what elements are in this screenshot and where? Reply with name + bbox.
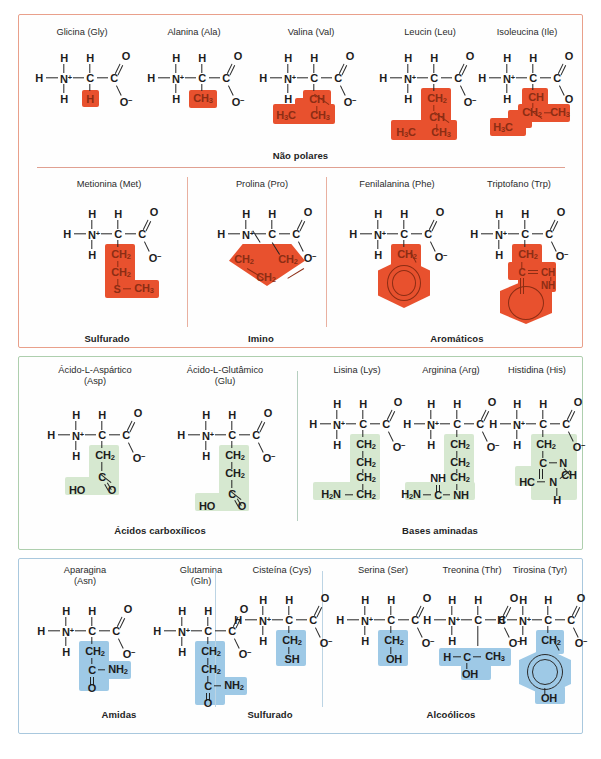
molecule-name: Aparagina (Asn) (27, 565, 143, 587)
molecule-triptofano: Triptofano (Trp) H N+ H H C H CH2 (456, 179, 582, 324)
row-divider (37, 167, 565, 168)
group-label-nao-polares: Não polares (19, 150, 582, 161)
group-label-acidos-carboxilicos: Ácidos carboxílicos (29, 525, 291, 536)
molecule-name: Lisina (Lys) (307, 365, 407, 376)
molecule-histidina: Histidina (His) H N+ H H C H CH2 C (487, 365, 587, 508)
group-divider (297, 371, 298, 521)
molecule-name: Fenilalanina (Phe) (333, 179, 461, 190)
molecule-name: Prolina (Pro) (197, 179, 327, 190)
molecule-name: Alanina (Ala) (139, 27, 249, 38)
molecule-acido-aspartico: Ácido-L-Aspártico (Asp) H N+ H H C H CH2… (29, 365, 161, 509)
molecule-name: Triptofano (Trp) (456, 179, 582, 190)
group-label-imino: Imino (197, 333, 325, 344)
molecule-aparagina: Aparagina (Asn) H N+ H H C H CH2 C (27, 565, 143, 697)
molecule-valina: Valina (Val) H N+ H H C H CH (251, 27, 371, 132)
group-label-bases-aminadas: Bases aminadas (305, 525, 575, 536)
amide-panel: Aparagina (Asn) H N+ H H C H CH2 C (18, 558, 583, 734)
group-label-aromaticos: Aromáticos (335, 333, 579, 344)
molecule-name: Glicina (Gly) (27, 27, 137, 38)
molecule-name: Ácido-L-Glutâmico (Glu) (159, 365, 291, 387)
group-label-sulfurado-1: Sulfurado (37, 333, 177, 344)
molecule-name: Histidina (His) (487, 365, 587, 376)
molecule-name: Metionina (Met) (39, 179, 179, 190)
molecule-name: Ácido-L-Aspártico (Asp) (29, 365, 161, 387)
group-label-amidas: Amidas (27, 709, 211, 720)
group-label-sulfurado-2: Sulfurado (219, 709, 321, 720)
molecule-metionina: Metionina (Met) H N+ H H C H CH2 CH2 (39, 179, 179, 304)
molecule-acido-glutamico: Ácido-L-Glutâmico (Glu) H N+ H H C H CH2… (159, 365, 291, 519)
indole-benzene-ring (508, 286, 544, 320)
molecule-alanina: Alanina (Ala) H N+ H H C H CH3 C O (139, 27, 249, 118)
group-divider (326, 177, 327, 327)
molecule-isoleucina: Isoleucina (Ile) H N+ H H C H CH (472, 27, 582, 148)
acid-panel: Ácido-L-Aspártico (Asp) H N+ H H C H CH2… (18, 356, 583, 550)
molecule-prolina: Prolina (Pro) H N+ H C H CH2 CH2 CH2 (197, 179, 327, 304)
group-divider (187, 177, 188, 327)
molecule-name: Tirosina (Tyr) (497, 565, 583, 576)
figure-root: Glicina (Gly) H N+ H H C H H C O (0, 0, 601, 759)
molecule-name: Isoleucina (Ile) (472, 27, 582, 38)
molecule-lisina: Lisina (Lys) H N+ H H C H CH2 CH2 CH2 (307, 365, 407, 508)
molecule-name: Valina (Val) (251, 27, 371, 38)
molecule-fenilalanina: Fenilalanina (Phe) H N+ H H C H CH2 (333, 179, 461, 310)
molecule-glicina: Glicina (Gly) H N+ H H C H H C O (27, 27, 137, 118)
nonpolar-panel: Glicina (Gly) H N+ H H C H H C O (18, 14, 583, 348)
group-label-alcoolicos: Alcoólicos (329, 709, 573, 720)
